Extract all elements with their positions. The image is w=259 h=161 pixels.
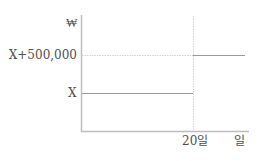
y-tick-low: X <box>68 86 77 100</box>
step-chart <box>0 0 259 161</box>
x-tick-20: 20일 <box>182 134 208 148</box>
x-unit-label: 일 <box>234 134 245 148</box>
y-tick-high: X+500,000 <box>9 48 77 62</box>
y-unit-label: ₩ <box>66 16 77 30</box>
